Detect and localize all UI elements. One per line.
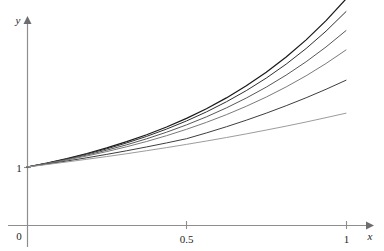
plot-canvas: 0.5 1 1 0 x y <box>0 0 384 251</box>
y-axis-arrow-icon <box>24 16 32 24</box>
curve-approximation-n-8 <box>27 31 346 167</box>
x-tick-label-1: 1 <box>344 233 350 245</box>
figure-container: 0.5 1 1 0 x y <box>0 0 384 251</box>
x-tick-label-0-5: 0.5 <box>180 233 194 245</box>
x-axis-arrow-icon <box>366 222 374 230</box>
curve-approximation-n-16 <box>27 12 346 167</box>
figure-top-caption <box>0 0 384 7</box>
curve-exact-solution <box>27 0 346 167</box>
origin-label: 0 <box>16 230 22 242</box>
y-tick-label-1: 1 <box>16 162 22 174</box>
curve-group <box>27 0 346 167</box>
y-axis-label: y <box>15 14 21 26</box>
x-axis-label: x <box>367 230 373 242</box>
